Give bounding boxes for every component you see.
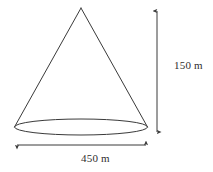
cone-right-slant-line <box>81 8 148 127</box>
diameter-dimension-label: 450 m <box>81 152 110 164</box>
cone-diagram-canvas <box>0 0 213 172</box>
cone-base-ellipse <box>15 119 148 135</box>
height-dimension-label: 150 m <box>174 59 203 71</box>
cone-left-slant-line <box>15 8 82 127</box>
cone-figure: 150 m 450 m <box>0 0 213 172</box>
